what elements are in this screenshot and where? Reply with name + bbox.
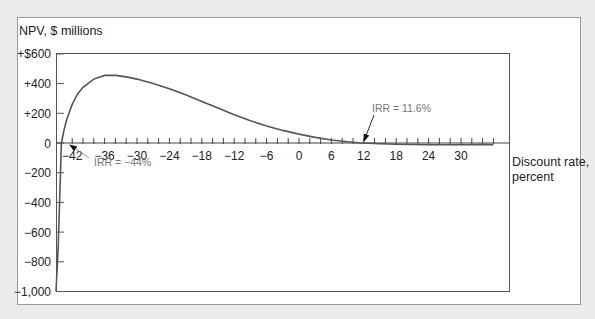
plot-area: [57, 54, 510, 292]
x-tick-label: 30: [454, 149, 468, 163]
y-tick-label: +200: [24, 107, 51, 121]
x-tick-label: 24: [422, 149, 436, 163]
x-tick-label: −24: [159, 149, 180, 163]
y-tick-label: 0: [44, 137, 51, 151]
x-tick-label: −12: [224, 149, 245, 163]
irr-high-label: IRR = 11.6%: [372, 102, 431, 114]
y-tick-label: −400: [24, 196, 51, 210]
y-tick-label: −600: [24, 226, 51, 240]
x-tick-label: −18: [192, 149, 213, 163]
x-tick-label: 12: [357, 149, 371, 163]
y-tick-label: −800: [24, 255, 51, 269]
y-tick-label: −1,000: [14, 285, 51, 299]
y-tick-label: +$600: [17, 47, 51, 61]
x-tick-label: 18: [390, 149, 404, 163]
y-tick-label: +400: [24, 77, 51, 91]
x-tick-label: −6: [260, 149, 274, 163]
y-tick-label: −200: [24, 166, 51, 180]
npv-chart: +$600+400+2000−200−400−600−800−1,000 −42…: [0, 0, 595, 319]
irr-high-annotation: IRR = 11.6%: [364, 102, 431, 141]
irr-low-label: IRR = −44%: [94, 156, 151, 168]
x-tick-label: 6: [328, 149, 335, 163]
x-tick-label: 0: [296, 149, 303, 163]
